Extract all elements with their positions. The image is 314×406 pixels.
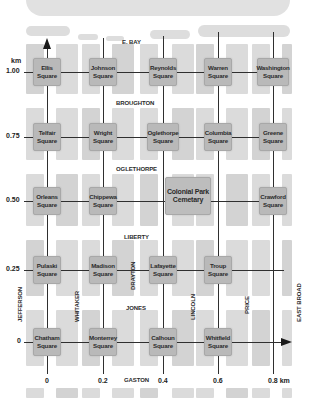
city-block xyxy=(26,388,44,398)
street-drayton: DRAYTON xyxy=(130,262,136,290)
north-arrow-icon xyxy=(43,38,51,49)
bay-strip-2 xyxy=(78,34,98,40)
street-east-broad: EAST BROAD xyxy=(296,283,302,322)
greene-square[interactable]: Greene Square xyxy=(259,123,287,151)
city-block xyxy=(252,240,270,296)
oglethorpe-square[interactable]: Oglethorpe Square xyxy=(147,123,179,151)
y-tick-1.00: 1.00 xyxy=(6,67,20,74)
x-tick-0: 0 xyxy=(45,377,49,384)
columbia-square[interactable]: Columbia Square xyxy=(204,123,232,151)
city-block xyxy=(282,388,292,398)
city-block xyxy=(282,240,292,296)
street-jefferson: JEFFERSON xyxy=(17,287,23,322)
street-whitaker: WHITAKER xyxy=(74,291,80,322)
city-block xyxy=(172,388,194,398)
street-gaston: GASTON xyxy=(124,377,149,383)
city-block xyxy=(140,174,158,226)
city-block xyxy=(196,388,214,398)
warren-square[interactable]: Warren Square xyxy=(204,58,232,86)
washington-square[interactable]: Washington Square xyxy=(257,58,289,86)
chatham-square[interactable]: Chatham Square xyxy=(33,328,61,356)
wright-square[interactable]: Wright Square xyxy=(89,123,117,151)
city-block xyxy=(226,174,248,226)
crawford-square[interactable]: Crawford Square xyxy=(259,187,287,215)
street-e-bay: E. BAY xyxy=(122,39,141,45)
street-oglethorpe: OGLETHORPE xyxy=(116,166,157,172)
y-tick-0.50: 0.50 xyxy=(6,196,20,203)
axis-x-0.4 xyxy=(163,36,164,374)
x-tick-0.8km: 0.8 km xyxy=(268,377,290,384)
troup-square[interactable]: Troup Square xyxy=(204,256,232,284)
monterrey-square[interactable]: Monterrey Square xyxy=(89,328,117,356)
city-block xyxy=(82,388,100,398)
calhoun-square[interactable]: Calhoun Square xyxy=(149,328,177,356)
city-block xyxy=(56,388,78,398)
telfair-square[interactable]: Telfair Square xyxy=(33,123,61,151)
y-axis-unit: km xyxy=(11,57,21,64)
y-tick-0.75: 0.75 xyxy=(6,132,20,139)
colonial-park-cemetery[interactable]: Colonial Park Cemetary xyxy=(165,177,211,215)
chippewa-square[interactable]: Chippewa Square xyxy=(89,187,117,215)
city-block xyxy=(226,388,248,398)
x-tick-0.4: 0.4 xyxy=(158,377,168,384)
savannah-squares-map: Ellis Square Johnson Square Reynolds Squ… xyxy=(0,0,314,406)
street-liberty: LIBERTY xyxy=(124,234,149,240)
pulaski-square[interactable]: Pulaski Square xyxy=(33,256,61,284)
axis-y-0.50 xyxy=(24,201,284,202)
x-tick-0.6: 0.6 xyxy=(213,377,223,384)
street-lincoln: LINCOLN xyxy=(190,294,196,320)
street-broughton: BROUGHTON xyxy=(116,100,154,106)
whitfield-square[interactable]: Whitfield Square xyxy=(204,328,232,356)
johnson-square[interactable]: Johnson Square xyxy=(89,58,117,86)
ellis-square[interactable]: Ellis Square xyxy=(33,58,61,86)
lafayette-square[interactable]: Lafayette Square xyxy=(149,256,177,284)
bay-strip-4 xyxy=(150,30,190,39)
river-fog xyxy=(26,0,290,16)
street-price: PRICE xyxy=(244,296,250,314)
bay-strip-5 xyxy=(198,25,290,37)
y-tick-0.25: 0.25 xyxy=(6,265,20,272)
madison-square[interactable]: Madison Square xyxy=(89,256,117,284)
y-tick-0: 0 xyxy=(17,337,21,344)
city-block xyxy=(252,310,270,366)
x-tick-0.2: 0.2 xyxy=(98,377,108,384)
city-block xyxy=(112,388,134,398)
orleans-square[interactable]: Orleans Square xyxy=(33,187,61,215)
city-block xyxy=(140,388,158,398)
reynolds-square[interactable]: Reynolds Square xyxy=(149,58,177,86)
street-jones: JONES xyxy=(126,305,146,311)
bay-strip-1 xyxy=(26,26,70,36)
city-block xyxy=(252,388,270,398)
east-arrow-icon xyxy=(281,338,292,346)
